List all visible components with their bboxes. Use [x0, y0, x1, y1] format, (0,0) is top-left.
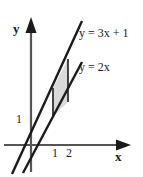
math-figure-region-between-lines: y x 1 1 2 y = 3x + 1 y = 2x — [0, 0, 143, 177]
line-label-y-equals-2x: y = 2x — [79, 61, 110, 73]
line-label-y-equals-3x-plus-1: y = 3x + 1 — [79, 27, 129, 39]
y-axis-arrowhead-icon — [26, 17, 37, 33]
y-axis-tick-label-1: 1 — [16, 113, 22, 125]
y-axis-label: y — [13, 22, 20, 35]
x-axis-tick-label-1: 1 — [52, 147, 58, 159]
x-axis-label: x — [115, 150, 122, 163]
x-axis-tick-label-2: 2 — [66, 147, 72, 159]
